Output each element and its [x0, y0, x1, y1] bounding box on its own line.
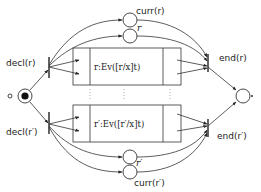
subnet-box-r-prime-label: r′:Ev([r′/x]t) [94, 119, 144, 129]
place-curr-r[interactable] [123, 13, 137, 27]
arc-decl-r-prime-to-box-1 [49, 117, 79, 124]
place-curr-r-prime-label: curr(r′) [134, 178, 165, 188]
arc-box-r-prime-to-end-r-prime-1 [177, 114, 207, 124]
arc-curr-r-to-end-r [137, 20, 207, 57]
petri-net-diagram: decl(r) decl(r′) r:Ev([r/x]t) r′:Ev([r′/… [0, 0, 261, 192]
arc-box-r-to-end-r-2 [177, 68, 207, 74]
subnet-box-r-label: r:Ev([r/x]t) [94, 62, 140, 72]
arc-decl-r-prime-to-box-2 [49, 124, 79, 131]
place-r-prime-label: r′ [136, 158, 142, 168]
place-r-label: r [137, 23, 142, 33]
ellipsis-dots [90, 89, 170, 101]
arc-curr-r-prime-to-end-r-prime [137, 133, 207, 172]
arc-decl-r-to-box-1 [49, 60, 79, 67]
arc-decl-r-to-box-2 [49, 67, 79, 74]
arc-box-r-to-end-r-1 [177, 60, 207, 66]
arc-start-to-decl-r [30, 70, 48, 90]
end-r-prime-label: end(r′) [217, 131, 247, 141]
end-place[interactable] [236, 89, 250, 103]
token-icon [21, 92, 28, 99]
decl-r-prime-label: decl(r′) [6, 127, 37, 137]
start-place[interactable] [18, 89, 32, 103]
end-marker-dot [251, 95, 253, 97]
arc-decl-r-prime-to-curr-r-prime [49, 127, 122, 172]
arc-end-r-prime-to-end-place [208, 102, 236, 126]
arc-box-r-prime-to-end-r-prime-2 [177, 126, 207, 131]
place-r-prime[interactable] [123, 150, 137, 164]
start-marker [8, 94, 12, 98]
arc-end-r-to-end-place [208, 67, 236, 90]
end-r-label: end(r) [219, 53, 247, 63]
arc-r-prime-to-end-r-prime [137, 130, 207, 157]
arc-r-to-end-r [137, 36, 207, 61]
decl-r-label: decl(r) [6, 58, 35, 68]
place-curr-r-label: curr(r) [136, 6, 165, 16]
place-r[interactable] [123, 29, 137, 43]
arc-decl-r-prime-to-r-prime [49, 126, 122, 157]
place-curr-r-prime[interactable] [123, 165, 137, 179]
arc-start-to-decl-r-prime [30, 102, 48, 123]
